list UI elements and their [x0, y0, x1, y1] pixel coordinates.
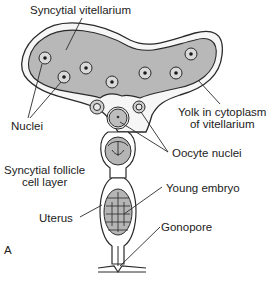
label-follicle-line1: Syncytial follicle	[4, 164, 85, 176]
label-yolk-line1: Yolk in cytoplasm	[178, 106, 266, 118]
body-surface	[98, 266, 146, 272]
label-yolk-cytoplasm: Yolk in cytoplasm of vitellarium	[178, 106, 266, 130]
label-uterus: Uterus	[39, 212, 73, 224]
label-gonopore: Gonopore	[161, 221, 212, 233]
label-young-embryo: Young embryo	[166, 182, 240, 194]
label-oocyte-nuclei: Oocyte nuclei	[172, 147, 242, 159]
label-syncytial-follicle: Syncytial follicle cell layer	[4, 164, 85, 188]
label-follicle-line2: cell layer	[4, 176, 85, 188]
label-syncytial-vitellarium: Syncytial vitellarium	[30, 4, 131, 16]
label-yolk-line2: of vitellarium	[178, 118, 266, 130]
diagram-canvas: Syncytial vitellarium Nuclei Yolk in cyt…	[0, 0, 273, 296]
panel-letter: A	[4, 244, 12, 256]
label-nuclei: Nuclei	[11, 120, 43, 132]
